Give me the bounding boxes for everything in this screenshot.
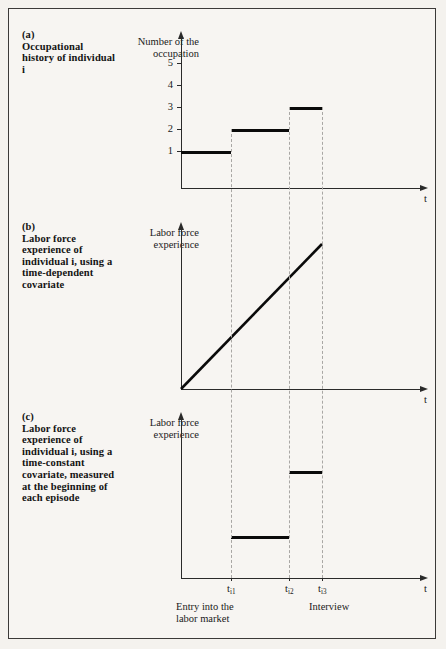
panel-c-y-axis [181,419,182,578]
panel-a-step-segment-2 [231,129,289,132]
panel-a-tick-label-4: 4 [159,79,173,90]
panel-c-y-axis-title: Labor force experience [113,417,199,441]
panel-a-caption-text: Occupational history of individual i [22,41,118,76]
time-marker-ti2-sub: i2 [288,588,294,596]
dashed-line-ti1 [231,129,232,578]
panel-a-tick-3 [177,107,182,108]
time-marker-ti1: ti1 [227,583,236,594]
panel-a-step-segment-1 [181,151,231,154]
panel-c-caption: (c) Labor force experience of individual… [22,411,118,504]
panel-a-y-axis-title: Number of the occupation [113,36,199,60]
footnote-interview: Interview [309,601,349,613]
panel-b-ramp-line [179,239,329,399]
panel-c-x-axis [181,578,421,579]
panel-c-step-segment-2 [289,471,322,474]
time-marker-ti3: ti3 [318,583,327,594]
panel-a-tag: (a) [22,29,118,41]
dashed-line-ti2 [289,107,290,578]
panel-a-tick-label-3: 3 [159,101,173,112]
panel-a-tick-5 [177,63,182,64]
time-marker-ti3-sub: i3 [321,588,327,596]
panel-b-x-axis-label: t [424,394,427,405]
panel-b-tag: (b) [22,221,118,233]
panel-c-step-segment-1 [231,536,289,539]
panel-a-caption: (a) Occupational history of individual i [22,29,118,75]
panel-a-tick-label-1: 1 [159,145,173,156]
panel-b-caption-text: Labor force experience of individual i, … [22,233,118,291]
time-marker-ti1-sub: i1 [230,588,236,596]
time-marker-ti2: ti2 [285,583,294,594]
figure-border: (a) Occupational history of individual i… [8,8,436,639]
dashed-line-ti3 [322,107,323,578]
panel-b-caption: (b) Labor force experience of individual… [22,221,118,291]
panel-c-tag: (c) [22,411,118,423]
panel-b-x-arrow-icon [420,386,428,392]
panel-a-x-axis-label: t [424,193,427,204]
panel-a-y-axis [181,38,182,188]
panel-a-tick-label-2: 2 [159,123,173,134]
panel-c-caption-text: Labor force experience of individual i, … [22,423,118,504]
panel-c-x-axis-label: t [424,583,427,594]
panel-c-x-arrow-icon [420,575,428,581]
panel-a-tick-4 [177,85,182,86]
panel-a-x-arrow-icon [420,185,428,191]
footnote-entry: Entry into the labor market [176,601,234,625]
panel-a-tick-2 [177,129,182,130]
panel-a-step-segment-3 [289,107,322,110]
panel-a-x-axis [181,188,421,189]
panel-a-tick-label-5: 5 [159,57,173,68]
figure-root: (a) Occupational history of individual i… [0,0,446,649]
